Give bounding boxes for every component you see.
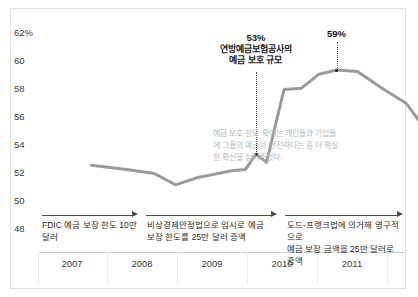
timeline-phase-1: FDIC 예금 보장 한도 10만 달러	[42, 219, 138, 243]
x-axis-tick: 2008	[112, 258, 172, 269]
x-axis-tick: 2007	[42, 258, 102, 269]
timeline-arrowhead-2	[271, 211, 277, 217]
timeline-phase-2-line-2: 보장 한도를 25만 달러 증액	[147, 232, 246, 242]
annotation-line-1: 연방예금보험공사의	[220, 44, 292, 54]
timeline-arrow-3	[285, 215, 397, 216]
year-separator	[107, 252, 108, 284]
timeline-phase-3: 도드-프랭크법에 의거해 영구적으로 예금 보장 금액을 25만 달러로 증액	[287, 219, 402, 267]
timeline-arrowhead-1	[132, 211, 138, 217]
timeline-phase-3-line-1: 도드-프랭크법에 의거해 영구적으로	[287, 220, 399, 242]
annotation-fdic-coverage: 53% 연방예금보험공사의 예금 보호 규모	[194, 32, 318, 67]
x-axis-tick: 2009	[182, 258, 242, 269]
timeline-phase-2-line-1: 비상경제안정법으로 임시로 예금	[147, 220, 264, 230]
timeline-phase-2: 비상경제안정법으로 임시로 예금 보장 한도를 25만 달러 증액	[147, 219, 273, 243]
timeline-phase-3-line-2: 예금 보장 금액을 25만 달러로 증액	[287, 244, 394, 266]
annotation-peak: 59%	[307, 28, 367, 40]
annotation-value-label: 59%	[307, 28, 367, 40]
annotation-leader-line	[337, 42, 338, 70]
timeline-arrowhead-3	[397, 211, 403, 217]
timeline-arrow-2	[146, 215, 271, 216]
annotation-data-point	[335, 69, 338, 72]
annotation-line-2: 예금 보호 규모	[229, 55, 282, 65]
year-separator	[177, 252, 178, 284]
timeline-arrow-1	[42, 215, 132, 216]
chart-figure: 62% 60 58 56 54 52 50 48 53% 연방예금보험공사의 예…	[0, 0, 418, 297]
timeline-phase-1-line-1: FDIC 예금 보장 한도 10만 달러	[42, 220, 137, 242]
year-separator	[38, 252, 39, 284]
year-separator	[247, 252, 248, 284]
chart-note-text: 예금 보호 한도 확대는 개인들과 기업들에 그들의 예금이 안전하다는 좀 더…	[213, 128, 341, 164]
annotation-value-label: 53%	[194, 32, 318, 44]
